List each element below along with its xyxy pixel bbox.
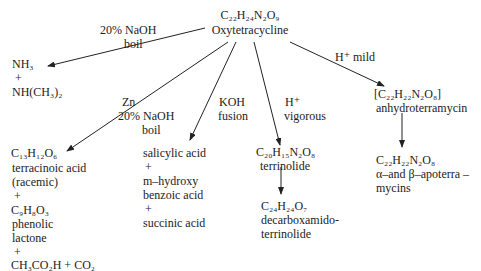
product-salicylic-6: succinic acid bbox=[143, 216, 205, 230]
product-terrinolide-2: terrinolide bbox=[260, 159, 310, 173]
product-apoterramycins-3: mycins bbox=[376, 181, 411, 195]
arrow-to-salicylic bbox=[190, 42, 236, 140]
product-salicylic-1: salicylic acid bbox=[143, 146, 206, 160]
product-terrinolide-1: C₂₀H₁₅N₂O₈ bbox=[256, 145, 315, 159]
product-salicylic-2: + bbox=[145, 160, 152, 174]
product-terracinoic-8: + bbox=[14, 245, 21, 259]
product-amines-1: NH₃ bbox=[12, 57, 34, 71]
product-decarboxamido-3: terrinolide bbox=[261, 227, 311, 241]
product-terracinoic-2: terracinoic acid bbox=[12, 161, 86, 175]
arrow-to-terrinolide bbox=[254, 42, 280, 145]
condition-koh-line2: fusion bbox=[218, 109, 248, 123]
condition-h-mild: H⁺ mild bbox=[335, 50, 375, 64]
reaction-arrows bbox=[0, 0, 481, 271]
product-amines-2: + bbox=[15, 71, 22, 85]
product-decarboxamido-1: C₂₄H₂₄O₇ bbox=[261, 199, 307, 213]
condition-naoh-line1: 20% NaOH bbox=[100, 23, 156, 37]
product-terracinoic-4: + bbox=[14, 189, 21, 203]
product-terracinoic-1: C₁₃H₁₂O₆ bbox=[11, 146, 57, 160]
product-salicylic-3: m–hydroxy bbox=[143, 174, 198, 188]
product-terracinoic-9: CH₃CO₂H + CO₂ bbox=[11, 258, 95, 271]
condition-zn-line1: Zn bbox=[122, 95, 135, 109]
oxytetracycline-formula: C₂₂H₂₄N₂O₉ bbox=[195, 8, 305, 22]
condition-naoh-line2: boil bbox=[124, 37, 143, 51]
condition-h-vigorous-line1: H⁺ bbox=[285, 95, 300, 109]
arrow-to-anhydro bbox=[290, 42, 384, 86]
product-anhydro-2: anhydroterramycin bbox=[376, 101, 467, 115]
oxytetracycline-name: Oxytetracycline bbox=[195, 23, 305, 37]
product-decarboxamido-2: decarboxamido- bbox=[261, 213, 339, 227]
product-amines-3: NH(CH₃)₂ bbox=[12, 85, 62, 99]
product-salicylic-5: + bbox=[145, 202, 152, 216]
condition-zn-line3: boil bbox=[142, 123, 161, 137]
product-anhydro-1: [C₂₂H₂₂N₂O₈] bbox=[374, 87, 441, 101]
condition-h-vigorous-line2: vigorous bbox=[284, 109, 326, 123]
product-apoterramycins-2: α–and β–apoterra – bbox=[376, 167, 469, 181]
product-terracinoic-6: phenolic bbox=[12, 217, 53, 231]
condition-zn-line2: 20% NaOH bbox=[118, 109, 174, 123]
product-salicylic-4: benzoic acid bbox=[143, 188, 203, 202]
product-terracinoic-3: (racemic) bbox=[12, 175, 58, 189]
product-terracinoic-7: lactone bbox=[12, 231, 47, 245]
product-terracinoic-5: C₉H₈O₃ bbox=[11, 203, 49, 217]
condition-koh-line1: KOH bbox=[219, 95, 245, 109]
product-apoterramycins-1: C₂₂H₂₂N₂O₈ bbox=[376, 153, 435, 167]
